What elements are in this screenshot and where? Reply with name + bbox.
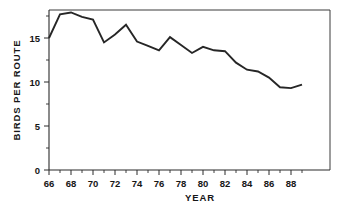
y-tick-label: 10 (29, 77, 40, 88)
x-tick-label: 84 (242, 178, 253, 189)
x-tick-label: 86 (264, 178, 275, 189)
y-tick-label: 0 (35, 165, 40, 176)
x-tick-label: 82 (220, 178, 231, 189)
x-tick-label: 72 (110, 178, 121, 189)
y-tick-label: 15 (29, 33, 40, 44)
chart-container: 15 10 5 0 (0, 0, 360, 212)
y-axis-tick-labels: 15 10 5 0 (29, 33, 40, 176)
x-tick-label: 76 (154, 178, 165, 189)
y-tick-label: 5 (35, 121, 41, 132)
x-tick-label: 80 (198, 178, 209, 189)
x-axis-tick-labels: 66 68 70 72 74 76 78 80 82 84 86 88 (44, 178, 297, 189)
y-axis-title: BIRDS PER ROUTE (11, 39, 22, 140)
x-tick-label: 74 (132, 178, 143, 189)
x-tick-label: 66 (44, 178, 55, 189)
x-tick-label: 68 (66, 178, 77, 189)
data-series-line (49, 12, 302, 88)
x-tick-label: 88 (286, 178, 297, 189)
line-chart-plot: 15 10 5 0 (0, 0, 360, 212)
x-tick-label: 70 (88, 178, 99, 189)
x-tick-label: 78 (176, 178, 187, 189)
plot-frame (49, 10, 330, 170)
x-axis-title: YEAR (185, 192, 215, 203)
